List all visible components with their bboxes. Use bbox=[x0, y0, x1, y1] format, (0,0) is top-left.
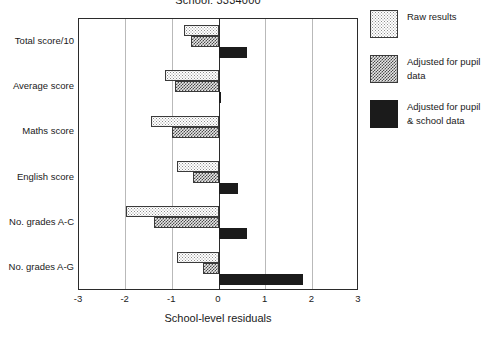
legend-swatch bbox=[370, 10, 398, 38]
x-axis-tick-label: 0 bbox=[215, 293, 220, 304]
x-axis-tick-label: -1 bbox=[167, 293, 175, 304]
y-axis-label: No. grades A-G bbox=[0, 261, 74, 272]
bar bbox=[177, 161, 219, 172]
x-axis-tick-label: -3 bbox=[74, 293, 82, 304]
y-axis-label-group: Total score/10Average scoreMaths scoreEn… bbox=[0, 18, 74, 290]
bar bbox=[219, 47, 247, 58]
y-axis-label: English score bbox=[0, 171, 74, 182]
legend-item[interactable]: Adjusted for pupil data bbox=[370, 55, 485, 83]
x-axis-tick-label: 3 bbox=[355, 293, 360, 304]
bar bbox=[165, 70, 219, 81]
bar bbox=[175, 81, 219, 92]
bar bbox=[172, 127, 219, 138]
x-axis-tick-label: 2 bbox=[309, 293, 314, 304]
y-axis-label: Total score/10 bbox=[0, 35, 74, 46]
legend-swatch bbox=[370, 100, 398, 128]
legend-label: Adjusted for pupil data bbox=[407, 55, 485, 83]
bar-group bbox=[79, 19, 357, 64]
bar-group bbox=[79, 200, 357, 245]
x-axis-title: School-level residuals bbox=[78, 312, 358, 324]
y-axis-label: Average score bbox=[0, 80, 74, 91]
bar-group bbox=[79, 64, 357, 109]
y-axis-label: Maths score bbox=[0, 125, 74, 136]
bar bbox=[219, 183, 238, 194]
bar bbox=[126, 206, 219, 217]
bar-group bbox=[79, 110, 357, 155]
legend-item[interactable]: Raw results bbox=[370, 10, 457, 38]
bar-group bbox=[79, 246, 357, 291]
legend-item[interactable]: Adjusted for pupil & school data bbox=[370, 100, 485, 128]
bar bbox=[219, 274, 303, 285]
y-axis-label: No. grades A-C bbox=[0, 216, 74, 227]
chart-title: School: 3334000 bbox=[78, 0, 358, 6]
residuals-bar-chart: School: 3334000 Total score/10Average sc… bbox=[0, 0, 487, 344]
bar bbox=[203, 263, 219, 274]
x-axis-tick-label: -2 bbox=[120, 293, 128, 304]
x-axis-tick-label: 1 bbox=[262, 293, 267, 304]
bar bbox=[191, 36, 219, 47]
bar bbox=[184, 25, 219, 36]
bar bbox=[219, 92, 221, 103]
x-axis-tick-group: -3-2-10123 bbox=[78, 293, 358, 307]
bar bbox=[177, 252, 219, 263]
bar bbox=[151, 116, 219, 127]
plot-area bbox=[78, 18, 358, 290]
legend-swatch bbox=[370, 55, 398, 83]
bar bbox=[154, 217, 219, 228]
legend-label: Adjusted for pupil & school data bbox=[407, 100, 485, 128]
bar bbox=[193, 172, 219, 183]
legend-label: Raw results bbox=[407, 10, 457, 24]
bar bbox=[219, 228, 247, 239]
bar-group bbox=[79, 155, 357, 200]
